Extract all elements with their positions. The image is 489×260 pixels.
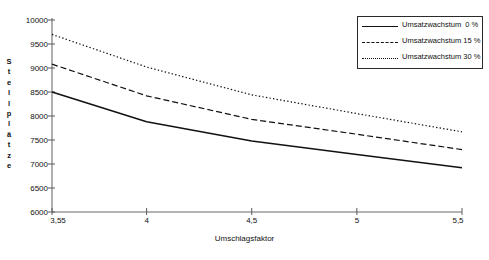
footer-bar: [0, 252, 489, 260]
legend: Umsatzwachstum 0 %Umsatzwachstum 15 %Ums…: [357, 16, 483, 69]
y-axis-tick-label: 8000: [30, 112, 48, 121]
y-axis-tick-label: 9000: [30, 64, 48, 73]
x-axis-tick-label: 3,55: [50, 216, 66, 225]
x-axis-tick-label: 4,5: [246, 216, 257, 225]
y-axis-tick-labels: 6000650070007500800085009000950010000: [14, 0, 48, 260]
y-axis-tick-label: 6500: [30, 184, 48, 193]
series-line-solid: [52, 92, 462, 168]
x-axis-tick-label: 5: [355, 216, 359, 225]
x-axis-tick-label: 4: [144, 216, 148, 225]
y-axis-tick-label: 7000: [30, 160, 48, 169]
legend-item: Umsatzwachstum 15 %: [362, 37, 480, 49]
chart-container: Stellplätze 6000650070007500800085009000…: [0, 0, 489, 260]
legend-item: Umsatzwachstum 30 %: [362, 53, 480, 65]
y-axis-tick-label: 6000: [30, 208, 48, 217]
series-line-dashed: [52, 64, 462, 149]
legend-line-sample-dashed-icon: [362, 42, 398, 43]
x-axis-title: Umschlagsfaktor: [0, 234, 489, 243]
legend-item-label: Umsatzwachstum 15 %: [402, 36, 480, 45]
legend-line-sample-dotted-icon: [362, 58, 398, 59]
y-axis-tick-label: 7500: [30, 136, 48, 145]
y-axis-tick-label: 9500: [30, 40, 48, 49]
legend-item-label: Umsatzwachstum 0 %: [402, 20, 478, 29]
y-axis-tick-label: 8500: [30, 88, 48, 97]
legend-item-label: Umsatzwachstum 30 %: [402, 52, 480, 61]
y-axis-tick-label: 10000: [26, 16, 48, 25]
x-axis-tick-label: 5,5: [452, 216, 463, 225]
legend-line-sample-solid-icon: [362, 26, 398, 27]
legend-item: Umsatzwachstum 0 %: [362, 21, 480, 33]
